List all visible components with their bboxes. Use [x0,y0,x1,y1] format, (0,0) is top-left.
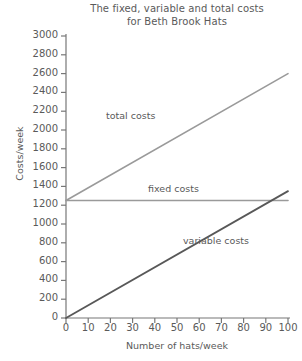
y-tick-label: 1200 [2,198,58,209]
series-label-total-costs: total costs [106,110,155,121]
axes-group [61,34,290,323]
y-tick-label: 1400 [2,179,58,190]
y-tick-label: 400 [2,273,58,284]
y-tick-label: 2800 [2,48,58,59]
x-axis-label: Number of hats/week [66,340,288,351]
series-group [66,74,288,318]
y-tick-label: 1000 [2,217,58,228]
y-axis-tick-labels: 0200400600800100012001400160018002000220… [0,0,58,361]
y-tick-label: 2600 [2,67,58,78]
y-tick-label: 1600 [2,161,58,172]
series-label-fixed-costs: fixed costs [148,183,199,194]
y-tick-label: 200 [2,292,58,303]
series-line-variable-costs [66,191,288,318]
y-tick-label: 2000 [2,123,58,134]
chart-container: The fixed, variable and total costs for … [0,0,302,361]
y-tick-label: 0 [2,311,58,322]
y-tick-label: 600 [2,255,58,266]
y-axis-label: Costs/week [14,117,25,191]
series-line-total-costs [66,74,288,201]
series-label-variable-costs: variable costs [183,235,249,246]
y-tick-label: 800 [2,236,58,247]
y-tick-label: 1800 [2,142,58,153]
y-tick-label: 2400 [2,85,58,96]
x-tick-label: 100 [275,322,301,333]
y-tick-label: 2200 [2,104,58,115]
y-tick-label: 3000 [2,29,58,40]
